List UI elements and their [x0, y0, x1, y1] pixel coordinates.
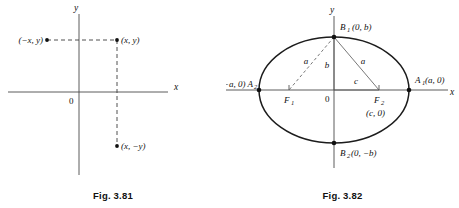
- vertex-b2-label: B 2 (0, −b): [340, 148, 377, 159]
- vertex-b1-label: B 1 (0, b): [340, 22, 372, 33]
- segment-c-label: c: [354, 76, 358, 86]
- figure-3-81-plot: y x 0 (−x, y) (x, y) (x, −y): [0, 0, 226, 180]
- focus-f2-label: F 2: [373, 95, 385, 106]
- vertex-b1-dot: [332, 35, 337, 40]
- vertex-b1-symbol: B: [340, 22, 346, 32]
- focus-f1-label: F 1: [283, 95, 294, 106]
- figure-3-82-plot: y x 0: [226, 0, 459, 180]
- origin-label: 0: [325, 94, 330, 104]
- focus-f2-symbol: F: [373, 95, 380, 105]
- vertex-a2-dot: [257, 88, 262, 93]
- point-x-neg-y-dot: [115, 144, 119, 148]
- figure-3-81-caption: Fig. 3.81: [0, 190, 226, 201]
- focus-f1-symbol: F: [283, 95, 290, 105]
- focus-f1-subscript: 1: [291, 99, 294, 106]
- figures-row: y x 0 (−x, y) (x, y) (x, −y) Fig. 3.81: [0, 0, 459, 208]
- focus-f2-subscript: 2: [381, 99, 385, 106]
- figure-3-82-svg: y x 0: [226, 0, 459, 180]
- vertex-b2-symbol: B: [340, 148, 346, 158]
- vertex-a1-dot: [407, 88, 412, 93]
- vertex-a1-symbol: A: [414, 75, 421, 85]
- x-axis-label: x: [173, 82, 179, 92]
- point-x-y-dot: [115, 38, 119, 42]
- figure-3-82: y x 0: [226, 0, 459, 208]
- focus-f2-coords: (c, 0): [366, 108, 385, 118]
- figure-3-81: y x 0 (−x, y) (x, y) (x, −y) Fig. 3.81: [0, 0, 226, 208]
- point-neg-x-y-label: (−x, y): [18, 35, 43, 45]
- segment-a-right-label: a: [361, 56, 366, 66]
- y-axis-label: y: [329, 5, 335, 15]
- point-x-neg-y-label: (x, −y): [121, 141, 146, 151]
- point-neg-x-y-dot: [45, 38, 49, 42]
- figure-3-81-svg: y x 0 (−x, y) (x, y) (x, −y): [0, 0, 226, 180]
- point-x-y-label: (x, y): [121, 35, 139, 45]
- vertex-b2-dot: [332, 141, 337, 146]
- x-axis-label: x: [449, 87, 455, 97]
- vertex-a2-coords: (−a, 0) A: [226, 79, 253, 89]
- origin-label: 0: [69, 96, 74, 106]
- segment-b-label: b: [325, 60, 330, 70]
- y-axis-label: y: [73, 3, 79, 13]
- vertex-b1-coords: (0, b): [352, 22, 372, 32]
- vertex-b2-coords: (0, −b): [351, 148, 377, 158]
- vertex-b1-subscript: 1: [347, 26, 350, 33]
- segment-a-left-label: a: [304, 56, 309, 66]
- figure-3-82-caption: Fig. 3.82: [226, 190, 459, 201]
- vertex-a2-label: (−a, 0) A 2: [226, 79, 258, 90]
- vertex-a1-coords: (a, 0): [425, 75, 445, 85]
- vertex-a1-label: A 1 (a, 0): [414, 75, 445, 86]
